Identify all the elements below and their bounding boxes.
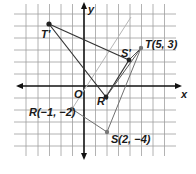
y-axis-down-arrow-icon [81, 153, 87, 160]
point-T-prime [46, 21, 51, 26]
y-axis-label: y [87, 3, 95, 15]
point-T [139, 46, 143, 50]
label-S: S(2, −4) [111, 133, 151, 145]
y-axis-up-arrow-icon [81, 2, 87, 9]
x-axis-label: x [180, 88, 188, 100]
label-R: R(−1, −2) [29, 106, 76, 118]
label-T-prime: T' [41, 28, 51, 40]
origin-label: O [74, 88, 83, 100]
coordinate-plane: y x O T' S' R' T(5, 3) R(−1, −2) S(2, −4… [0, 0, 196, 174]
x-axis-left-arrow-icon [16, 83, 23, 89]
point-S [105, 130, 109, 134]
label-S-prime: S' [121, 47, 131, 59]
label-T: T(5, 3) [145, 38, 178, 50]
grid [14, 4, 176, 156]
label-R-prime: R' [97, 95, 108, 107]
